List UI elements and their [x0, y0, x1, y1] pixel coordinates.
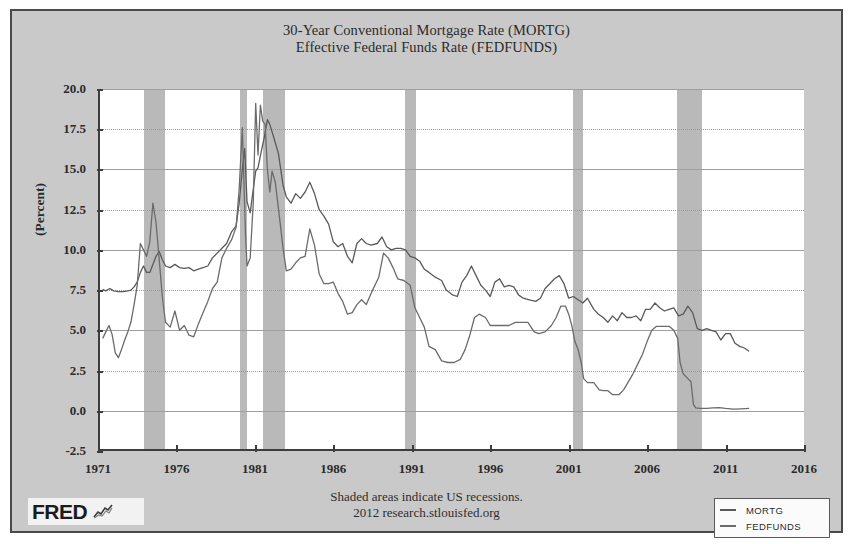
- x-tick-label: 2011: [713, 461, 738, 477]
- y-tick-mark: [97, 89, 103, 91]
- x-tick-label: 2001: [556, 461, 582, 477]
- y-tick-mark: [97, 290, 103, 292]
- series-lines: [98, 89, 804, 451]
- y-tick-mark: [97, 129, 103, 131]
- legend-label: FEDFUNDS: [746, 521, 801, 532]
- series-line-mortg: [103, 120, 749, 352]
- x-tick-label: 1986: [320, 461, 346, 477]
- x-tick-mark: [804, 445, 806, 452]
- y-tick-label: 7.5: [70, 282, 86, 298]
- y-axis-label: (Percent): [32, 183, 48, 236]
- y-tick-label: 17.5: [63, 121, 86, 137]
- x-tick-mark: [412, 445, 414, 452]
- x-tick-mark: [726, 445, 728, 452]
- x-tick-label: 1996: [477, 461, 503, 477]
- y-tick-mark: [97, 169, 103, 171]
- fred-logo[interactable]: FRED: [28, 498, 144, 525]
- legend-swatch-icon: [720, 525, 736, 527]
- legend-label: MORTG: [746, 505, 783, 516]
- y-tick-label: -2.5: [65, 443, 86, 459]
- legend-swatch-icon: [720, 509, 736, 511]
- y-tick-label: 15.0: [63, 161, 86, 177]
- x-tick-mark: [98, 445, 100, 452]
- y-tick-label: 10.0: [63, 242, 86, 258]
- x-tick-mark: [569, 445, 571, 452]
- x-tick-mark: [176, 445, 178, 452]
- x-tick-label: 1971: [85, 461, 111, 477]
- chart-title-line-2: Effective Federal Funds Rate (FEDFUNDS): [12, 39, 841, 56]
- chart-title-block: 30-Year Conventional Mortgage Rate (MORT…: [12, 22, 841, 56]
- x-tick-mark: [490, 445, 492, 452]
- chart-squiggle-icon: [93, 504, 113, 519]
- x-tick-label: 2016: [791, 461, 817, 477]
- chart-title-line-1: 30-Year Conventional Mortgage Rate (MORT…: [12, 22, 841, 39]
- y-tick-mark: [97, 210, 103, 212]
- x-tick-mark: [255, 445, 257, 452]
- y-tick-label: 5.0: [70, 322, 86, 338]
- x-tick-mark: [647, 445, 649, 452]
- y-tick-mark: [97, 411, 103, 413]
- x-tick-label: 1976: [163, 461, 189, 477]
- legend-item-fedfunds[interactable]: FEDFUNDS: [720, 518, 824, 534]
- fred-wordmark: FRED: [32, 501, 87, 522]
- y-tick-mark: [97, 250, 103, 252]
- series-line-fedfunds: [103, 104, 749, 410]
- x-tick-label: 1991: [399, 461, 425, 477]
- y-tick-mark: [97, 330, 103, 332]
- y-tick-label: 12.5: [63, 202, 86, 218]
- y-tick-mark: [97, 371, 103, 373]
- fred-chart-figure: 30-Year Conventional Mortgage Rate (MORT…: [10, 9, 843, 533]
- legend-item-mortg[interactable]: MORTG: [720, 502, 824, 518]
- x-tick-label: 1981: [242, 461, 268, 477]
- chart-legend[interactable]: MORTGFEDFUNDS: [714, 498, 830, 538]
- y-tick-label: 2.5: [70, 363, 86, 379]
- x-tick-label: 2006: [634, 461, 660, 477]
- y-tick-label: 0.0: [70, 403, 86, 419]
- plot-area: [98, 89, 804, 451]
- x-tick-mark: [333, 445, 335, 452]
- y-tick-label: 20.0: [63, 81, 86, 97]
